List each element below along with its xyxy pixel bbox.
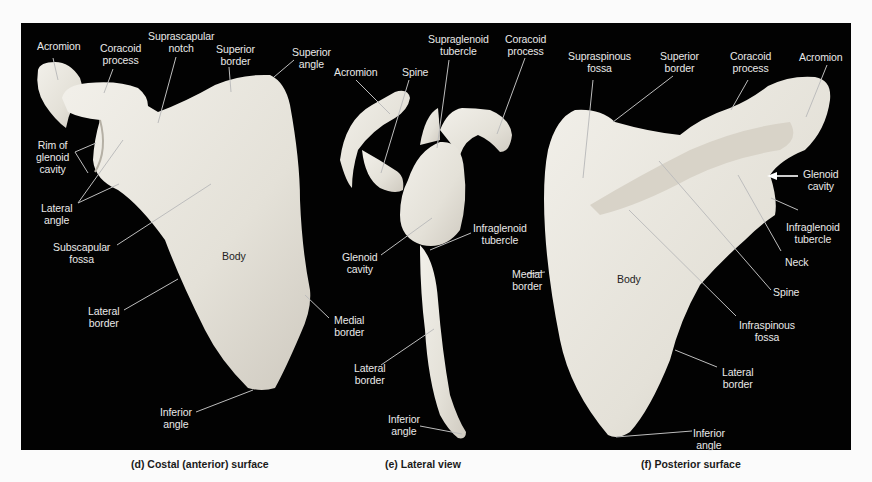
- caption-e: (e) Lateral view: [385, 458, 461, 470]
- label-f-acromion: Acromion: [799, 51, 843, 63]
- label-f-infraglenoid-tubercle: Infraglenoid tubercle: [786, 221, 840, 245]
- label-d-subscapular-fossa: Subscapular fossa: [53, 241, 110, 265]
- label-e-supraglenoid-tubercle: Supraglenoid tubercle: [428, 33, 489, 57]
- label-f-inferior-angle: Inferior angle: [693, 427, 725, 451]
- label-d-suprascapular-notch: Suprascapular notch: [148, 30, 214, 54]
- label-e-inferior-angle: Inferior angle: [388, 413, 420, 437]
- label-d-medial-border: Medial border: [334, 314, 364, 338]
- label-e-infraglenoid-tubercle: Infraglenoid tubercle: [473, 222, 527, 246]
- caption-d: (d) Costal (anterior) surface: [131, 458, 269, 470]
- label-d-inferior-angle: Inferior angle: [160, 406, 192, 430]
- label-e-glenoid-cavity: Glenoid cavity: [342, 251, 378, 275]
- label-f-glenoid-cavity: Glenoid cavity: [803, 168, 839, 192]
- label-f-coracoid-process: Coracoid process: [730, 50, 771, 74]
- label-f-supraspinous-fossa: Supraspinous fossa: [568, 50, 631, 74]
- label-f-superior-border: Superior border: [660, 50, 699, 74]
- label-d-coracoid-process: Coracoid process: [100, 42, 141, 66]
- label-e-spine: Spine: [402, 66, 428, 78]
- label-e-lateral-border: Lateral border: [354, 362, 385, 386]
- label-f-neck: Neck: [785, 256, 809, 268]
- label-d-acromion: Acromion: [37, 40, 81, 52]
- label-f-body: Body: [617, 273, 641, 285]
- label-d-superior-angle: Superior angle: [292, 46, 331, 70]
- label-d-lateral-border: Lateral border: [88, 305, 119, 329]
- label-d-superior-border: Superior border: [216, 43, 255, 67]
- costal-surface-scapula: [37, 62, 310, 390]
- caption-f: (f) Posterior surface: [641, 458, 741, 470]
- label-f-infraspinous-fossa: Infraspinous fossa: [739, 319, 795, 343]
- label-f-medial-border: Medial border: [512, 268, 542, 292]
- label-f-spine: Spine: [773, 286, 799, 298]
- label-e-acromion: Acromion: [334, 66, 378, 78]
- label-e-coracoid-process: Coracoid process: [505, 33, 546, 57]
- label-d-body: Body: [222, 250, 246, 262]
- label-f-lateral-border: Lateral border: [722, 366, 753, 390]
- label-d-rim-of-glenoid-cavity: Rim of glenoid cavity: [36, 139, 69, 175]
- label-d-lateral-angle: Lateral angle: [41, 202, 72, 226]
